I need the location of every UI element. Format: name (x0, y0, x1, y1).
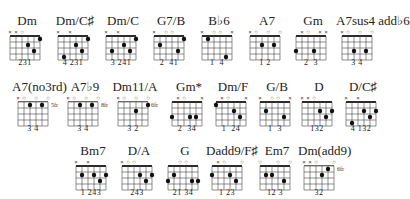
svg-text:○: ○ (20, 29, 24, 35)
chord-name: Dm/C (100, 14, 146, 28)
svg-text:○: ○ (218, 29, 222, 35)
svg-text:×: × (120, 159, 124, 165)
svg-text:○: ○ (270, 95, 274, 101)
svg-text:×: × (306, 95, 310, 101)
svg-text:○: ○ (226, 95, 230, 101)
svg-text:○: ○ (22, 95, 26, 101)
chord-name: D (296, 80, 342, 94)
svg-text:○: ○ (184, 159, 188, 165)
svg-text:×: × (308, 159, 312, 165)
finger-numbers: 3 4 (336, 58, 378, 67)
svg-text:○: ○ (306, 29, 310, 35)
svg-text:×: × (74, 159, 78, 165)
svg-text:○: ○ (276, 159, 280, 165)
finger-numbers: 2 41 (148, 58, 190, 67)
svg-text:×: × (220, 95, 224, 101)
finger-numbers: 3 4 (62, 124, 104, 133)
svg-text:×: × (86, 159, 90, 165)
svg-text:×: × (324, 29, 328, 35)
svg-text:×: × (8, 29, 12, 35)
svg-text:○: ○ (134, 95, 138, 101)
svg-text:○: ○ (84, 95, 88, 101)
svg-text:○: ○ (276, 95, 280, 101)
svg-text:○: ○ (212, 29, 216, 35)
finger-numbers: 3 4 (12, 124, 54, 133)
finger-numbers: 1 4 (196, 58, 238, 67)
svg-text:○: ○ (146, 95, 150, 101)
svg-text:×: × (66, 95, 70, 101)
chord-name: Dadd9/F♯ (206, 144, 252, 158)
svg-text:○: ○ (314, 159, 318, 165)
svg-text:○: ○ (126, 159, 130, 165)
svg-text:○: ○ (132, 159, 136, 165)
finger-numbers: 1 2 (244, 58, 286, 67)
finger-numbers: 12 3 (254, 188, 296, 197)
svg-text:×: × (244, 95, 248, 101)
svg-text:×: × (300, 95, 304, 101)
svg-text:×: × (200, 95, 204, 101)
svg-text:6fr: 6fr (151, 102, 158, 108)
svg-text:×: × (300, 29, 304, 35)
svg-text:○: ○ (358, 29, 362, 35)
chord-name: Dm (4, 14, 50, 28)
finger-numbers: 2 3 (290, 58, 332, 67)
chord-name: G (162, 144, 208, 158)
svg-text:×: × (248, 29, 252, 35)
svg-text:○: ○ (164, 29, 168, 35)
chord-name: Bm7 (70, 144, 116, 158)
svg-text:6fr: 6fr (337, 166, 344, 172)
svg-text:○: ○ (240, 159, 244, 165)
svg-text:×: × (200, 29, 204, 35)
finger-numbers: 1 23 (206, 188, 248, 197)
chord-name: Dm/F (210, 80, 256, 94)
chord-name: A7(no3rd) (12, 80, 58, 94)
svg-text:○: ○ (170, 29, 174, 35)
svg-text:○: ○ (258, 159, 262, 165)
svg-text:○: ○ (288, 159, 292, 165)
finger-numbers: 3 241 (100, 58, 142, 67)
svg-text:○: ○ (370, 29, 374, 35)
svg-text:○: ○ (178, 159, 182, 165)
svg-text:×: × (116, 29, 120, 35)
svg-text:×: × (68, 29, 72, 35)
svg-text:×: × (152, 29, 156, 35)
svg-text:○: ○ (96, 95, 100, 101)
finger-numbers: 4 132 (340, 124, 382, 133)
svg-text:○: ○ (332, 159, 336, 165)
fretboard-grid: ×○○○6fr (112, 94, 172, 128)
finger-numbers: 3 2 (112, 124, 154, 133)
svg-text:○: ○ (182, 95, 186, 101)
chord-name: A7 (244, 14, 290, 28)
svg-text:○: ○ (34, 95, 38, 101)
svg-text:5fr: 5fr (51, 102, 58, 108)
chord-name: G/B (254, 80, 300, 94)
finger-numbers: 21 34 (162, 188, 204, 197)
chord-name: A7♭9 (62, 80, 108, 94)
chord-name: Dm11/A (112, 80, 158, 94)
svg-text:×: × (176, 95, 180, 101)
finger-numbers: 4 231 (52, 58, 94, 67)
svg-text:○: ○ (122, 95, 126, 101)
chord-name: Em7 (254, 144, 300, 158)
svg-text:×: × (56, 29, 60, 35)
finger-numbers: 132 (296, 124, 338, 133)
finger-numbers: 1 3 (254, 124, 296, 133)
svg-text:×: × (302, 159, 306, 165)
finger-numbers: 243 (116, 188, 158, 197)
svg-text:○: ○ (72, 95, 76, 101)
finger-numbers: 1 243 (70, 188, 112, 197)
finger-numbers: 2 34 (166, 124, 208, 133)
svg-text:×: × (318, 29, 322, 35)
chord-name: Gm* (166, 80, 212, 94)
fretboard-grid: ×× (340, 94, 400, 128)
svg-text:×: × (104, 29, 108, 35)
chord-name: G7/B (148, 14, 194, 28)
svg-text:×: × (356, 95, 360, 101)
svg-text:×: × (230, 29, 234, 35)
svg-text:○: ○ (254, 29, 258, 35)
svg-text:8fr: 8fr (101, 102, 108, 108)
chord-name: Dm/C♯ (52, 14, 98, 28)
finger-numbers: 32 (298, 188, 340, 197)
svg-text:○: ○ (312, 95, 316, 101)
chord-name: Gm (290, 14, 336, 28)
